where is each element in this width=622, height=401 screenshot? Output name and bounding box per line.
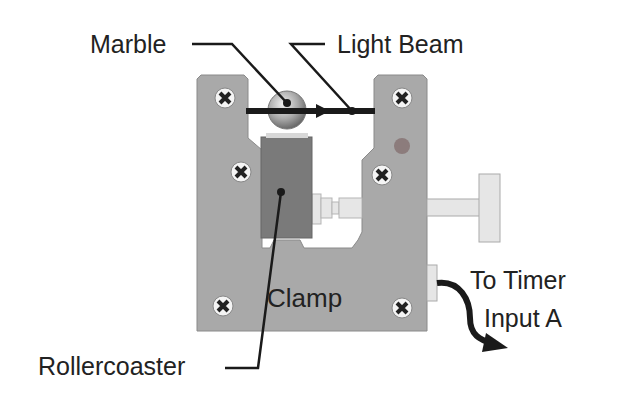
- beam-arrow-icon: [316, 104, 330, 118]
- timer-connector: [427, 265, 437, 301]
- sensor-led: [394, 138, 410, 154]
- timer-label-line1: To Timer: [470, 268, 566, 293]
- timer-label-line2: Input A: [484, 306, 562, 331]
- adjustment-knob: [427, 174, 500, 242]
- photogate-diagram: [0, 0, 622, 401]
- marble-label: Marble: [90, 32, 166, 57]
- light-beam-label: Light Beam: [337, 32, 463, 57]
- rollercoaster-block: [261, 137, 312, 238]
- cable-arrow-icon: [482, 333, 508, 352]
- clamp-label: Clamp: [267, 285, 342, 311]
- inner-screw-icon: [312, 194, 362, 224]
- rollercoaster-label: Rollercoaster: [38, 354, 185, 379]
